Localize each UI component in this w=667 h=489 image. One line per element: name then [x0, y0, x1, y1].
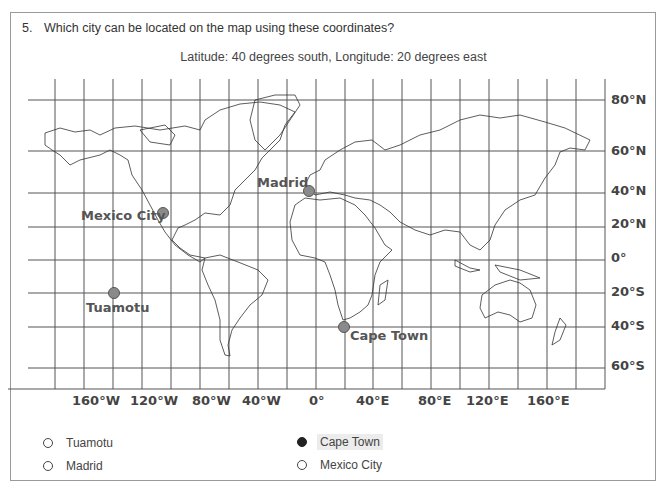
- option-madrid[interactable]: Madrid: [43, 459, 103, 473]
- city-label-tuamotu: Tuamotu: [86, 300, 149, 315]
- city-marker-cape-town: [338, 321, 350, 333]
- lat-label-0: 0°: [611, 250, 627, 265]
- city-marker-tuamotu: [108, 287, 120, 299]
- lat-label-20s: 20°S: [611, 284, 645, 299]
- lon-label-160e: 160°E: [527, 393, 570, 408]
- lon-label-80e: 80°E: [418, 393, 451, 408]
- map-grid: [8, 79, 605, 389]
- lon-label-40e: 40°E: [356, 393, 389, 408]
- option-label: Cape Town: [317, 434, 383, 450]
- lon-label-120w: 120°W: [130, 393, 178, 408]
- lat-label-20n: 20°N: [611, 216, 646, 231]
- radio-icon[interactable]: [43, 461, 53, 471]
- lon-label-120e: 120°E: [466, 393, 509, 408]
- lat-label-60n: 60°N: [611, 143, 646, 158]
- radio-icon[interactable]: [43, 438, 53, 448]
- world-map: [0, 0, 667, 489]
- option-tuamotu[interactable]: Tuamotu: [43, 436, 113, 450]
- continent-outlines: [45, 95, 590, 356]
- lon-label-160w: 160°W: [72, 393, 120, 408]
- radio-selected-icon[interactable]: [297, 437, 307, 447]
- lon-label-0: 0°: [309, 393, 325, 408]
- lat-label-40n: 40°N: [611, 183, 646, 198]
- option-label: Tuamotu: [66, 436, 113, 450]
- option-cape-town[interactable]: Cape Town: [297, 434, 383, 450]
- lat-label-40s: 40°S: [611, 318, 645, 333]
- city-label-madrid: Madrid: [257, 175, 308, 190]
- lat-label-80n: 80°N: [611, 92, 646, 107]
- city-label-cape-town: Cape Town: [350, 328, 428, 343]
- city-label-mexico-city: Mexico City: [81, 208, 165, 223]
- lat-label-60s: 60°S: [611, 358, 645, 373]
- option-label: Madrid: [66, 459, 103, 473]
- lon-label-80w: 80°W: [192, 393, 231, 408]
- radio-icon[interactable]: [297, 460, 307, 470]
- option-mexico-city[interactable]: Mexico City: [297, 458, 382, 472]
- option-label: Mexico City: [320, 458, 382, 472]
- lon-label-40w: 40°W: [242, 393, 281, 408]
